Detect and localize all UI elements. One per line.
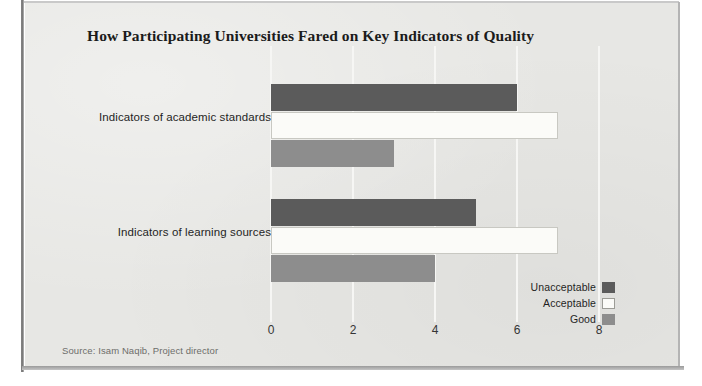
x-tick-label-2: 2	[350, 323, 357, 337]
bar-acceptable	[271, 112, 558, 139]
page-frame-right	[678, 2, 680, 368]
page-frame-bottom	[22, 366, 684, 370]
scanned-page: How Participating Universities Fared on …	[0, 0, 702, 386]
bar-unacceptable	[271, 199, 476, 226]
legend-label: Unacceptable	[531, 281, 596, 293]
legend-item: Unacceptable	[480, 280, 615, 294]
category-label: Indicators of academic standards	[99, 111, 271, 123]
x-tick-label-0: 0	[268, 323, 275, 337]
bar-acceptable	[271, 227, 558, 254]
x-tick-label-4: 4	[432, 323, 439, 337]
legend-swatch-unacceptable	[602, 282, 615, 293]
chart-panel: How Participating Universities Fared on …	[25, 3, 678, 366]
bar-good	[271, 255, 435, 282]
chart-legend: UnacceptableAcceptableGood	[480, 280, 615, 328]
legend-swatch-good	[602, 314, 615, 325]
chart-title: How Participating Universities Fared on …	[87, 27, 534, 45]
legend-item: Acceptable	[480, 296, 615, 310]
category-label: Indicators of learning sources	[118, 226, 271, 238]
legend-label: Acceptable	[543, 297, 596, 309]
page-frame-left	[21, 0, 24, 372]
source-note: Source: Isam Naqib, Project director	[62, 345, 218, 356]
legend-item: Good	[480, 312, 615, 326]
legend-label: Good	[570, 313, 596, 325]
bar-unacceptable	[271, 84, 517, 111]
legend-swatch-acceptable	[602, 298, 615, 309]
bar-good	[271, 140, 394, 167]
